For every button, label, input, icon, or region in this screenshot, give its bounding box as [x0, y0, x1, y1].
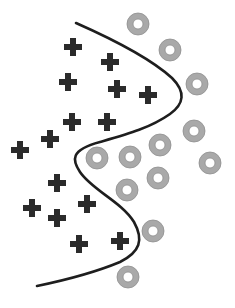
- circle-marker: [86, 147, 108, 169]
- circle-marker: [159, 39, 181, 61]
- circle-marker: [199, 152, 221, 174]
- circle-marker: [186, 73, 208, 95]
- circle-marker: [147, 167, 169, 189]
- circle-marker: [117, 266, 139, 288]
- circle-marker: [142, 220, 164, 242]
- circle-marker: [119, 146, 141, 168]
- circle-marker: [116, 179, 138, 201]
- diagram-canvas: [0, 0, 235, 308]
- decision-boundary-diagram: [0, 0, 235, 308]
- circle-marker: [127, 13, 149, 35]
- circle-marker: [183, 120, 205, 142]
- circle-marker: [149, 134, 171, 156]
